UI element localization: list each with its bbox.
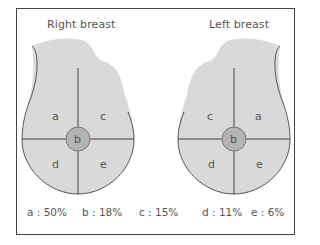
right-label-c: c <box>100 110 106 123</box>
legend-b: b : 18% <box>82 206 122 218</box>
right-label-a: a <box>52 110 59 123</box>
left-breast-shape <box>178 38 290 194</box>
legend-d: d : 11% <box>202 206 242 218</box>
legend-e: e : 6% <box>251 206 284 218</box>
right-label-b: b <box>74 133 81 146</box>
legend-a: a : 50% <box>27 206 67 218</box>
right-label-d: d <box>52 158 59 171</box>
left-label-e: e <box>256 158 263 171</box>
right-label-e: e <box>100 158 107 171</box>
legend-c: c : 15% <box>139 206 178 218</box>
left-label-a: a <box>255 110 262 123</box>
left-label-b: b <box>230 133 237 146</box>
right-breast-shape <box>22 38 134 194</box>
left-label-c: c <box>207 110 213 123</box>
left-label-d: d <box>208 158 215 171</box>
